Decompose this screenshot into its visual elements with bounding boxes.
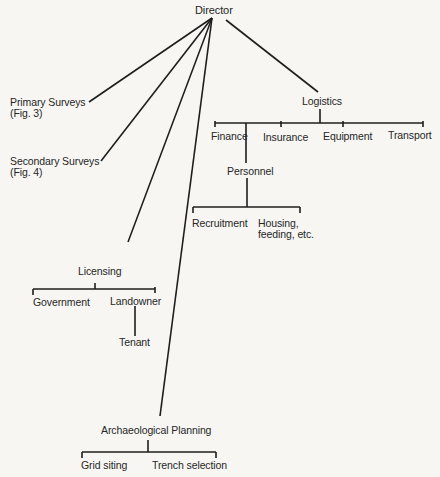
- node-finance: Finance: [211, 131, 248, 142]
- node-trench-selection: Trench selection: [152, 460, 227, 471]
- node-government: Government: [33, 297, 90, 308]
- node-tenant: Tenant: [119, 337, 150, 348]
- node-landowner: Landowner: [110, 296, 161, 307]
- node-secondary-surveys: Secondary Surveys (Fig. 4): [10, 156, 99, 178]
- node-grid-siting: Grid siting: [81, 460, 127, 471]
- node-insurance: Insurance: [263, 132, 308, 143]
- node-housing-feeding: Housing, feeding, etc.: [258, 218, 314, 240]
- node-licensing: Licensing: [78, 266, 121, 277]
- node-recruitment: Recruitment: [192, 218, 248, 229]
- node-personnel: Personnel: [227, 166, 273, 177]
- node-logistics: Logistics: [302, 96, 342, 107]
- node-equipment: Equipment: [323, 131, 372, 142]
- node-director: Director: [195, 5, 233, 16]
- node-transport: Transport: [388, 130, 432, 141]
- node-primary-surveys: Primary Surveys (Fig. 3): [10, 97, 86, 119]
- connector-lines: [0, 0, 440, 477]
- node-archaeological-planning: Archaeological Planning: [101, 425, 211, 436]
